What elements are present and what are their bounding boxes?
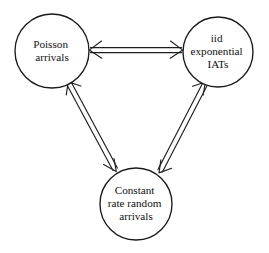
node-poisson-arrivals-line-2: arrivals [35,51,69,63]
node-poisson-arrivals[interactable]: Poisson arrivals [15,14,89,88]
diagram-canvas: Poisson arrivals iid exponential IATs Co… [0,0,269,253]
edge-poisson-iid-arrowhead-left [89,41,102,58]
edge-iid-constant-line-left [158,83,203,169]
node-constant-rate-random-arrivals-line-2: rate random [108,197,162,209]
diagram-root: Poisson arrivals iid exponential IATs Co… [0,0,269,253]
node-iid-exponential-iats-line-1: iid [211,32,223,44]
node-poisson-arrivals-line-1: Poisson [33,38,68,50]
node-iid-exponential-iats[interactable]: iid exponential IATs [183,17,253,87]
edge-poisson-constant [66,82,117,172]
node-iid-exponential-iats-line-2: exponential [191,45,243,57]
edge-iid-constant [158,82,207,173]
edge-poisson-iid-arrowhead-right [170,41,183,58]
node-iid-exponential-iats-line-3: IATs [208,58,229,70]
node-constant-rate-random-arrivals-line-3: arrivals [119,210,153,222]
edge-iid-constant-line-right [162,86,207,172]
node-poisson-arrivals-label: Poisson arrivals [33,38,71,63]
edge-poisson-iid [89,41,183,58]
edge-poisson-constant-line-left [67,85,113,171]
node-constant-rate-random-arrivals-line-1: Constant [115,184,156,196]
edge-poisson-constant-line-right [71,83,117,169]
node-constant-rate-random-arrivals[interactable]: Constant rate random arrivals [100,168,172,240]
